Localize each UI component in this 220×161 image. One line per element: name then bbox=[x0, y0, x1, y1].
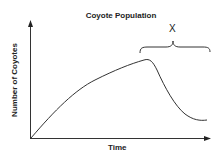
y-axis-label: Number of Coyotes bbox=[10, 43, 19, 117]
brace-annotation-label: X bbox=[169, 23, 176, 34]
chart-title: Coyote Population bbox=[0, 11, 220, 20]
coyote-population-chart: Coyote Population Number of Coyotes Time… bbox=[0, 0, 220, 161]
chart-plot bbox=[0, 0, 220, 161]
x-axis-label: Time bbox=[108, 143, 127, 152]
x-brace bbox=[140, 41, 210, 53]
x-axis bbox=[31, 136, 212, 141]
y-axis bbox=[28, 20, 33, 139]
population-curve bbox=[31, 59, 207, 138]
